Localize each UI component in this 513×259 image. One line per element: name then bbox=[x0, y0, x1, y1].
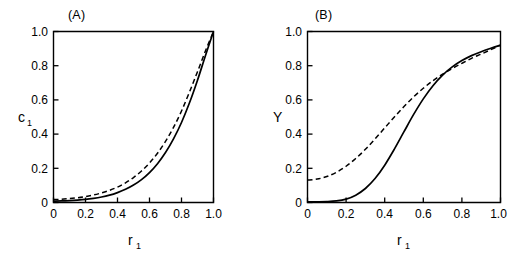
y-tick-label: 0.8 bbox=[285, 59, 302, 73]
y-tick-label: 1.0 bbox=[285, 25, 302, 39]
panel-b-label: (B) bbox=[315, 8, 332, 22]
x-tick-label: 0 bbox=[304, 207, 311, 221]
x-tick-label: 0.2 bbox=[77, 207, 94, 221]
y-axis-title-base: c bbox=[18, 109, 25, 125]
panel-a-y-ticks bbox=[54, 32, 59, 203]
x-tick-label: 1.0 bbox=[205, 207, 222, 221]
panel-a-label: (A) bbox=[68, 8, 85, 22]
panel-a-y-axis-title: c 1 bbox=[18, 109, 32, 128]
y-tick-label: 0.2 bbox=[31, 162, 48, 176]
y-tick-label: 0 bbox=[41, 196, 48, 210]
panel-a-curve-dashed bbox=[54, 32, 214, 200]
y-tick-label: 0.4 bbox=[31, 127, 48, 141]
panel-b-y-tick-labels: 1.0 0.8 0.6 0.4 0.2 0 bbox=[285, 25, 302, 210]
x-axis-title-subscript: 1 bbox=[136, 241, 141, 251]
figure-container: (A) bbox=[0, 0, 513, 259]
x-tick-label: 0.4 bbox=[376, 207, 393, 221]
x-axis-title-base: r bbox=[397, 232, 402, 248]
panel-a-x-tick-labels: 0 0.2 0.4 0.6 0.8 1.0 bbox=[50, 207, 222, 221]
x-axis-title-subscript: 1 bbox=[405, 241, 410, 251]
x-tick-label: 0.2 bbox=[338, 207, 355, 221]
panel-b-curve-solid bbox=[308, 45, 501, 202]
x-tick-label: 0.6 bbox=[141, 207, 158, 221]
y-tick-label: 0.4 bbox=[285, 127, 302, 141]
y-tick-label: 0.6 bbox=[31, 93, 48, 107]
y-tick-label: 0.6 bbox=[285, 93, 302, 107]
y-tick-label: 1.0 bbox=[31, 25, 48, 39]
x-tick-label: 0 bbox=[50, 207, 57, 221]
x-tick-label: 0.8 bbox=[173, 207, 190, 221]
y-tick-label: 0 bbox=[295, 196, 302, 210]
x-tick-label: 0.6 bbox=[415, 207, 432, 221]
x-tick-label: 0.8 bbox=[454, 207, 471, 221]
panel-b-x-axis-title: r 1 bbox=[397, 232, 410, 251]
panel-b-axes-frame bbox=[308, 32, 501, 203]
y-tick-label: 0.8 bbox=[31, 59, 48, 73]
panel-a-x-axis-title: r 1 bbox=[128, 232, 141, 251]
panel-a-curve-solid bbox=[54, 32, 214, 202]
panel-a-plot: (A) bbox=[0, 0, 256, 259]
x-tick-label: 0.4 bbox=[109, 207, 126, 221]
panel-b-x-tick-labels: 0 0.2 0.4 0.6 0.8 1.0 bbox=[304, 207, 507, 221]
panel-b-plot: (B) bbox=[257, 0, 513, 259]
panel-a: (A) bbox=[0, 0, 256, 259]
panel-b-curve-dashed bbox=[308, 45, 501, 180]
panel-b: (B) bbox=[257, 0, 513, 259]
y-axis-title-subscript: 1 bbox=[27, 118, 32, 128]
panel-b-y-ticks bbox=[308, 32, 313, 203]
x-axis-title-base: r bbox=[128, 232, 133, 248]
panel-a-y-tick-labels: 1.0 0.8 0.6 0.4 0.2 0 bbox=[31, 25, 48, 210]
x-tick-label: 1.0 bbox=[490, 207, 507, 221]
y-axis-title-base: Y bbox=[273, 109, 283, 125]
y-tick-label: 0.2 bbox=[285, 162, 302, 176]
panel-b-y-axis-title: Y bbox=[273, 109, 283, 125]
